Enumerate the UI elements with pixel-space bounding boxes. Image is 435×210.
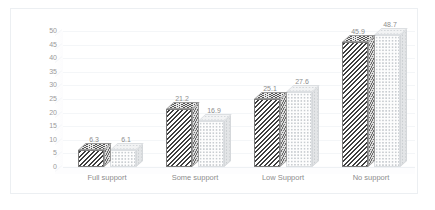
y-tick-label: 50 [31, 27, 57, 35]
gridline [63, 167, 415, 168]
bar-group: 25.127.6 [239, 31, 327, 167]
bar[interactable] [78, 150, 104, 167]
data-label: 25.1 [255, 85, 285, 92]
x-axis-label: Low Support [243, 173, 323, 182]
bar[interactable] [198, 121, 224, 167]
data-label: 6.1 [111, 136, 141, 143]
y-tick-label: 15 [31, 122, 57, 130]
bar-front-face [286, 92, 312, 167]
bar-front-face [374, 35, 400, 167]
data-label: 48.7 [375, 21, 405, 28]
bar[interactable] [254, 99, 280, 167]
bar-group: 45.948.7 [327, 31, 415, 167]
y-tick-label: 25 [31, 95, 57, 103]
bar[interactable] [342, 42, 368, 167]
bar-front-face [166, 109, 192, 167]
data-label: 21.2 [167, 95, 197, 102]
bar[interactable] [286, 92, 312, 167]
y-tick-label: 45 [31, 41, 57, 49]
data-label: 27.6 [287, 78, 317, 85]
chart-container: 05101520253035404550 6.36.121.216.925.12… [10, 8, 418, 194]
y-tick-label: 0 [31, 163, 57, 171]
y-tick-label: 35 [31, 68, 57, 76]
bar-front-face [198, 121, 224, 167]
y-tick-label: 10 [31, 136, 57, 144]
data-label: 6.3 [79, 136, 109, 143]
bar-group: 6.36.1 [63, 31, 151, 167]
bar[interactable] [374, 35, 400, 167]
y-tick-label: 5 [31, 149, 57, 157]
x-axis-label: Some support [155, 173, 235, 182]
bar-front-face [254, 99, 280, 167]
bar[interactable] [166, 109, 192, 167]
data-label: 45.9 [343, 28, 373, 35]
y-tick-label: 20 [31, 109, 57, 117]
bar-side-face [224, 115, 231, 167]
x-axis-label: No support [331, 173, 411, 182]
bar-side-face [368, 36, 375, 167]
plot-area: 05101520253035404550 6.36.121.216.925.12… [63, 31, 415, 167]
bar-group: 21.216.9 [151, 31, 239, 167]
y-tick-label: 40 [31, 54, 57, 62]
x-axis-label: Full support [67, 173, 147, 182]
bar-front-face [342, 42, 368, 167]
bar-side-face [280, 92, 287, 167]
bar-front-face [110, 150, 136, 167]
y-tick-label: 30 [31, 81, 57, 89]
bar-side-face [312, 86, 319, 167]
bar-side-face [400, 28, 407, 167]
bar-side-face [192, 103, 199, 167]
bar-front-face [78, 150, 104, 167]
data-label: 16.9 [199, 107, 229, 114]
bar[interactable] [110, 150, 136, 167]
